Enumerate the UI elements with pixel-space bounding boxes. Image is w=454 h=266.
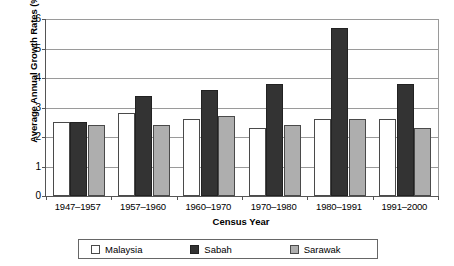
bar-sabah bbox=[70, 122, 87, 196]
legend-swatch-icon bbox=[290, 245, 299, 254]
legend-swatch-icon bbox=[91, 245, 100, 254]
chart-legend: MalaysiaSabahSarawak bbox=[78, 239, 378, 259]
bar-sabah bbox=[331, 28, 348, 196]
bar-group bbox=[111, 19, 176, 196]
bar-sarawak bbox=[414, 128, 431, 196]
x-tick-mark bbox=[307, 196, 308, 200]
bar-sarawak bbox=[284, 125, 301, 196]
x-tick-mark bbox=[373, 196, 374, 200]
bar-sabah bbox=[201, 90, 218, 196]
bar-malaysia bbox=[314, 119, 331, 196]
y-tick-label: 6 bbox=[17, 14, 41, 24]
x-tick-mark bbox=[177, 196, 178, 200]
plot-area bbox=[45, 19, 438, 197]
legend-swatch-icon bbox=[190, 245, 199, 254]
bar-malaysia bbox=[379, 119, 396, 196]
bar-malaysia bbox=[118, 113, 135, 196]
bar-group bbox=[46, 19, 111, 196]
legend-label: Sarawak bbox=[304, 244, 341, 255]
x-tick-label: 1980–1991 bbox=[306, 201, 371, 212]
bar-sarawak bbox=[153, 125, 170, 196]
bar-group bbox=[373, 19, 438, 196]
legend-label: Sabah bbox=[204, 244, 231, 255]
y-tick-label: 1 bbox=[17, 162, 41, 172]
bar-sarawak bbox=[88, 125, 105, 196]
bar-sabah bbox=[135, 96, 152, 196]
x-tick-label: 1991–2000 bbox=[372, 201, 437, 212]
y-tick-label: 2 bbox=[17, 132, 41, 142]
bar-malaysia bbox=[183, 119, 200, 196]
x-tick-mark bbox=[438, 196, 439, 200]
legend-item-sabah[interactable]: Sabah bbox=[178, 244, 277, 255]
x-tick-label: 1957–1960 bbox=[110, 201, 175, 212]
x-tick-mark bbox=[242, 196, 243, 200]
bar-malaysia bbox=[53, 122, 70, 196]
plot-right-border bbox=[438, 19, 439, 196]
legend-item-malaysia[interactable]: Malaysia bbox=[79, 244, 178, 255]
x-tick-label: 1970–1980 bbox=[241, 201, 306, 212]
bar-sarawak bbox=[349, 119, 366, 196]
bar-group bbox=[242, 19, 307, 196]
y-tick-label: 5 bbox=[17, 44, 41, 54]
bar-group bbox=[177, 19, 242, 196]
legend-label: Malaysia bbox=[105, 244, 143, 255]
bar-malaysia bbox=[249, 128, 266, 196]
legend-item-sarawak[interactable]: Sarawak bbox=[278, 244, 377, 255]
x-axis-title: Census Year bbox=[45, 216, 437, 227]
x-tick-mark bbox=[46, 196, 47, 200]
x-tick-label: 1947–1957 bbox=[45, 201, 110, 212]
bar-chart: Average Annual Growth Rates (%) Census Y… bbox=[0, 0, 454, 266]
bar-sarawak bbox=[218, 116, 235, 196]
y-tick-label: 3 bbox=[17, 103, 41, 113]
x-tick-mark bbox=[111, 196, 112, 200]
y-tick-label: 0 bbox=[17, 191, 41, 201]
bar-group bbox=[307, 19, 372, 196]
y-tick-label: 4 bbox=[17, 73, 41, 83]
bar-sabah bbox=[266, 84, 283, 196]
x-tick-label: 1960–1970 bbox=[176, 201, 241, 212]
bar-sabah bbox=[397, 84, 414, 196]
